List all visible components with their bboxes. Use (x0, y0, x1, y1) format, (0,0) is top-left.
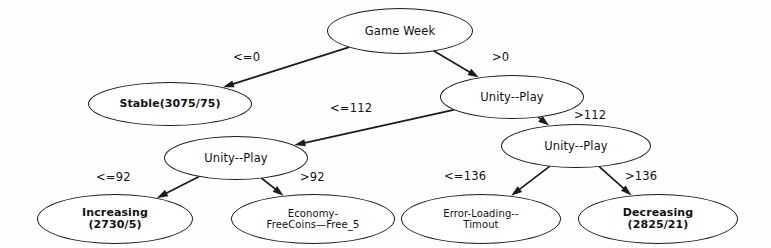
edge-line (434, 51, 473, 74)
edge-label-e-root-unity-a: >0 (492, 50, 509, 64)
edge-arrowhead (157, 190, 168, 198)
tree-node-root: Game Week (327, 8, 473, 54)
tree-node-stable: Stable(3075/75) (88, 82, 252, 126)
tree-node-label: Unity--Play (502, 140, 650, 153)
tree-edge-e-unity-a-unity-c (538, 116, 549, 126)
edge-label-e-unity-b-economy: >92 (300, 170, 325, 184)
edge-label-e-unity-a-unity-c: >112 (574, 108, 606, 122)
tree-node-unity-a: Unity--Play (440, 75, 584, 119)
edge-line (516, 167, 549, 193)
tree-node-label: Game Week (328, 25, 472, 38)
tree-node-label: Economy- FreeCoins—Free_5 (232, 208, 394, 230)
tree-node-label: Unity--Play (441, 91, 583, 104)
tree-node-unity-c: Unity--Play (501, 124, 651, 168)
tree-node-unity-b: Unity--Play (164, 136, 308, 180)
edge-line (300, 110, 453, 144)
tree-node-errorload: Error-Loading-- Timout (401, 194, 561, 244)
edge-arrowhead (223, 80, 235, 87)
tree-edge-e-unity-a-unity-b (294, 110, 453, 146)
tree-node-label: Stable(3075/75) (89, 98, 251, 110)
edge-line (162, 177, 198, 195)
edge-label-e-unity-b-increasing: <=92 (96, 170, 131, 184)
edge-label-e-unity-c-decreasing: >136 (625, 169, 657, 183)
decision-tree-diagram: Game WeekStable(3075/75)Unity--PlayUnity… (0, 0, 771, 248)
tree-node-economy: Economy- FreeCoins—Free_5 (231, 194, 395, 244)
tree-node-label: Decreasing (2825/21) (579, 207, 737, 232)
tree-node-decreasing: Decreasing (2825/21) (578, 194, 738, 244)
edge-label-e-root-stable: <=0 (233, 50, 260, 64)
tree-node-label: Error-Loading-- Timout (402, 208, 560, 230)
edge-label-e-unity-a-unity-b: <=112 (330, 101, 372, 115)
tree-edge-e-root-unity-a (434, 51, 478, 77)
edge-arrowhead (468, 69, 479, 78)
tree-edge-e-unity-b-economy (262, 179, 284, 196)
edge-label-e-unity-c-errorload: <=136 (444, 169, 486, 183)
tree-edge-e-unity-c-errorload (511, 167, 549, 196)
tree-node-label: Unity--Play (165, 152, 307, 165)
tree-edge-e-unity-b-increasing (157, 177, 199, 198)
edge-line (599, 167, 627, 192)
tree-node-increasing: Increasing (2730/5) (37, 194, 193, 244)
tree-node-label: Increasing (2730/5) (38, 207, 192, 232)
